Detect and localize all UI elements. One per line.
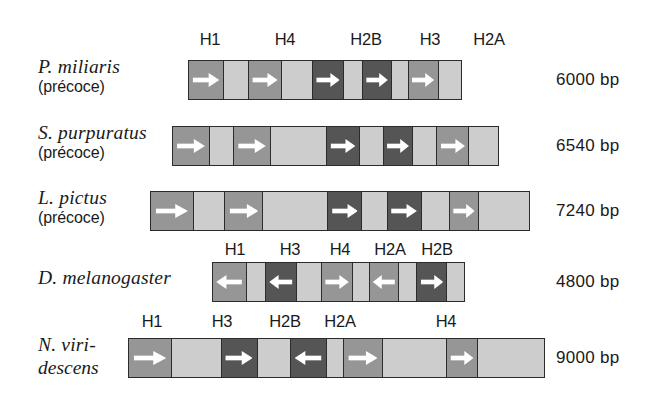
spacer-segment bbox=[270, 127, 327, 165]
spacer-segment bbox=[193, 192, 225, 230]
arrow-right-icon bbox=[391, 204, 417, 218]
spacer-segment bbox=[326, 339, 344, 377]
arrow-left-icon bbox=[295, 351, 322, 365]
gene-label-h3: H3 bbox=[420, 30, 441, 49]
spacer-segment bbox=[296, 263, 321, 301]
spacer-segment bbox=[478, 192, 529, 230]
gene-segment-h1 bbox=[151, 192, 193, 230]
gene-label-h4: H4 bbox=[330, 240, 351, 259]
gene-label-group-p-miliaris: H1H4H2BH3H2A bbox=[0, 30, 652, 50]
species-label-d-melanogaster: D. melanogaster bbox=[38, 266, 171, 289]
species-name-secondary: (précoce) bbox=[38, 78, 120, 97]
gene-cluster-bar-l-pictus bbox=[150, 191, 530, 231]
gene-label-h3: H3 bbox=[280, 240, 301, 259]
spacer-segment bbox=[412, 127, 437, 165]
cluster-size-label-d-melanogaster: 4800 bp bbox=[556, 272, 620, 292]
gene-label-h1: H1 bbox=[142, 312, 163, 331]
species-name-primary: S. purpuratus bbox=[38, 121, 147, 144]
spacer-segment bbox=[209, 127, 234, 165]
gene-segment-h1 bbox=[189, 61, 223, 99]
gene-label-h2a: H2A bbox=[374, 240, 406, 259]
spacer-segment bbox=[468, 127, 498, 165]
gene-label-h4: H4 bbox=[436, 312, 457, 331]
spacer-segment bbox=[438, 61, 461, 99]
arrow-left-icon bbox=[217, 275, 243, 289]
cluster-size-label-n-viridescens: 9000 bp bbox=[556, 348, 620, 368]
gene-cluster-bar-d-melanogaster bbox=[212, 262, 465, 302]
arrow-right-icon bbox=[331, 139, 356, 153]
gene-label-h2a: H2A bbox=[473, 30, 505, 49]
gene-segment-h3 bbox=[221, 339, 257, 377]
species-name-primary: N. viri- bbox=[38, 333, 99, 356]
gene-label-h2b: H2B bbox=[421, 240, 453, 259]
gene-label-group-n-viridescens: H1H3H2BH2AH4 bbox=[0, 312, 652, 332]
arrow-right-icon bbox=[238, 139, 266, 153]
gene-segment-h1 bbox=[173, 127, 209, 165]
spacer-segment bbox=[281, 61, 311, 99]
species-label-n-viridescens: N. viri-descens bbox=[38, 333, 99, 379]
histone-gene-cluster-figure: P. miliaris(précoce)H1H4H2BH3H2A6000 bpS… bbox=[0, 0, 652, 396]
species-name-secondary: (précoce) bbox=[38, 209, 107, 228]
species-name-primary: P. miliaris bbox=[38, 55, 120, 78]
spacer-segment bbox=[171, 339, 221, 377]
gene-segment-h2b bbox=[327, 192, 361, 230]
gene-segment-h3 bbox=[387, 192, 421, 230]
arrow-right-icon bbox=[387, 139, 409, 153]
gene-segment-h4 bbox=[224, 192, 262, 230]
arrow-left-icon bbox=[373, 275, 395, 289]
spacer-segment bbox=[421, 192, 449, 230]
arrow-right-icon bbox=[225, 351, 252, 365]
arrow-right-icon bbox=[134, 351, 167, 365]
arrow-right-icon bbox=[332, 204, 358, 218]
arrow-right-icon bbox=[453, 204, 475, 218]
spacer-segment bbox=[391, 61, 408, 99]
gene-segment-h1 bbox=[129, 339, 171, 377]
gene-label-h1: H1 bbox=[200, 30, 221, 49]
spacer-segment bbox=[246, 263, 265, 301]
gene-segment-h4 bbox=[446, 339, 477, 377]
gene-segment-h2a bbox=[436, 127, 468, 165]
arrow-right-icon bbox=[193, 73, 220, 87]
spacer-segment bbox=[352, 263, 368, 301]
gene-segment-h4 bbox=[321, 263, 352, 301]
gene-segment-h1 bbox=[213, 263, 246, 301]
gene-segment-h4 bbox=[233, 127, 269, 165]
gene-segment-h2b bbox=[416, 263, 446, 301]
species-name-primary: D. melanogaster bbox=[38, 266, 171, 289]
arrow-right-icon bbox=[253, 73, 278, 87]
spacer-segment bbox=[477, 339, 544, 377]
gene-cluster-bar-p-miliaris bbox=[188, 60, 462, 100]
gene-segment-h2a bbox=[449, 192, 478, 230]
gene-label-h1: H1 bbox=[225, 240, 246, 259]
gene-segment-h2b bbox=[290, 339, 325, 377]
gene-segment-h2a bbox=[369, 263, 399, 301]
spacer-segment bbox=[382, 339, 446, 377]
gene-cluster-bar-s-purpuratus bbox=[172, 126, 499, 166]
gene-label-h2a: H2A bbox=[324, 312, 356, 331]
arrow-left-icon bbox=[269, 275, 293, 289]
gene-segment-h3 bbox=[362, 61, 391, 99]
cluster-size-label-p-miliaris: 6000 bp bbox=[556, 70, 620, 90]
arrow-right-icon bbox=[420, 275, 442, 289]
cluster-size-label-l-pictus: 7240 bp bbox=[556, 201, 620, 221]
species-name-primary: L. pictus bbox=[38, 186, 107, 209]
gene-cluster-bar-n-viridescens bbox=[128, 338, 545, 378]
species-label-l-pictus: L. pictus(précoce) bbox=[38, 186, 107, 228]
arrow-right-icon bbox=[412, 73, 434, 87]
gene-segment-h2a bbox=[408, 61, 438, 99]
spacer-segment bbox=[223, 61, 248, 99]
species-name-secondary: descens bbox=[38, 356, 99, 379]
arrow-right-icon bbox=[441, 139, 465, 153]
gene-segment-h4 bbox=[248, 61, 281, 99]
spacer-segment bbox=[262, 192, 327, 230]
gene-label-h2b: H2B bbox=[350, 30, 382, 49]
cluster-size-label-s-purpuratus: 6540 bp bbox=[556, 136, 620, 156]
arrow-right-icon bbox=[348, 351, 377, 365]
spacer-segment bbox=[361, 192, 387, 230]
arrow-right-icon bbox=[229, 204, 258, 218]
arrow-right-icon bbox=[366, 73, 388, 87]
gene-segment-h3 bbox=[265, 263, 296, 301]
arrow-right-icon bbox=[316, 73, 339, 87]
arrow-right-icon bbox=[156, 204, 188, 218]
spacer-segment bbox=[343, 61, 362, 99]
